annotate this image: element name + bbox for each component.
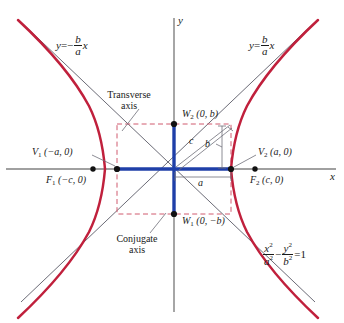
equation-x-fraction: x2 a2 [263, 242, 274, 267]
point-label-w1-coords: (0, −b) [196, 215, 224, 226]
point-label-f1-sub: 1 [52, 179, 56, 187]
equation-y-fraction: y2 b2 [282, 242, 293, 267]
point-v2 [228, 166, 234, 172]
equation-x-den-exp: 2 [270, 254, 274, 262]
point-f2 [252, 166, 257, 171]
figure-canvas [0, 0, 344, 323]
measure-c-line-2 [179, 128, 232, 170]
equation-y-den-exp: 2 [289, 254, 293, 262]
measure-lines [175, 125, 233, 181]
asymptote-left-equation: y=−bax [56, 35, 88, 58]
point-label-f1: F1 (−c, 0) [46, 174, 86, 187]
point-label-v1-coords: (−a, 0) [44, 146, 72, 157]
asymptote-right-var: x [270, 39, 275, 51]
point-label-f2-sub: 2 [256, 179, 260, 187]
point-label-w1-sub: 1 [190, 220, 194, 228]
point-f1 [90, 166, 95, 171]
leader-v2 [234, 155, 256, 167]
conjugate-axis-label-line2: axis [129, 244, 145, 255]
point-label-v1: V1 (−a, 0) [32, 146, 73, 159]
measure-label-c: c [189, 135, 193, 146]
point-label-v2-coords: (a, 0) [270, 146, 292, 157]
hyperbola-equation: x2 a2 − y2 b2 =1 [262, 243, 306, 268]
asymptote-right-eq: = [254, 39, 260, 51]
point-label-f1-coords: (−c, 0) [58, 174, 86, 185]
point-label-w2: W2 (0, b) [182, 108, 218, 121]
point-w2 [171, 121, 177, 127]
equation-y-den: b2 [282, 255, 293, 267]
transverse-axis-label-line1: Transverse [107, 89, 151, 100]
asymptote-right-fraction: ba [261, 34, 269, 57]
asymptote-right-den: a [261, 46, 269, 57]
point-label-w2-sub: 2 [190, 113, 194, 121]
asymptote-left-sign: − [67, 39, 73, 51]
measure-label-a: a [198, 177, 203, 188]
point-label-v2-sub: 2 [264, 151, 268, 159]
point-v1 [114, 166, 120, 172]
point-label-v1-sub: 1 [38, 151, 42, 159]
equation-y-num-exp: 2 [288, 241, 292, 249]
point-w1 [171, 211, 177, 217]
y-axis-label: y [178, 14, 183, 26]
asymptote-left-fraction: ba [74, 34, 82, 57]
measure-b-arrow [216, 144, 222, 147]
asymptote-left-den: a [74, 46, 82, 57]
hyperbola-figure: y x y=−bax y=bax Transverse axis Conjuga… [0, 0, 344, 323]
measure-label-b: b [205, 138, 210, 149]
leader-conjugate-axis [150, 213, 166, 233]
equation-one: 1 [300, 248, 306, 260]
equation-x-den: a2 [263, 255, 274, 267]
asymptote-left-var: x [83, 39, 88, 51]
conjugate-axis-label-line1: Conjugate [116, 233, 157, 244]
transverse-axis-label-line2: axis [121, 100, 137, 111]
point-label-w2-coords: (0, b) [196, 108, 218, 119]
equation-minus: − [275, 248, 281, 260]
equation-x-num-exp: 2 [269, 241, 273, 249]
x-axis-label: x [330, 170, 335, 182]
asymptote-right-equation: y=bax [249, 35, 275, 58]
point-label-v2: V2 (a, 0) [258, 146, 292, 159]
point-label-w1: W1 (0, −b) [182, 215, 225, 228]
point-label-f2-coords: (c, 0) [262, 174, 283, 185]
transverse-axis-label: Transverse axis [96, 89, 162, 111]
conjugate-axis-label: Conjugate axis [104, 233, 170, 255]
point-label-f2: F2 (c, 0) [250, 174, 283, 187]
